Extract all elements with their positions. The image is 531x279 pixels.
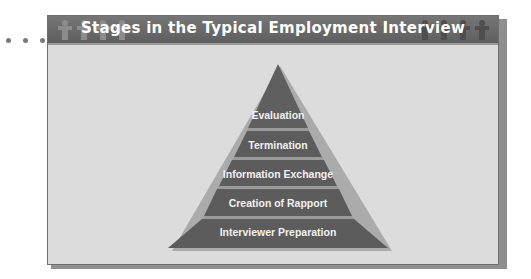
stage-label: Information Exchange xyxy=(223,168,333,180)
stage-label: Creation of Rapport xyxy=(229,197,328,209)
stage-label: Termination xyxy=(248,139,307,151)
stage-label: Interviewer Preparation xyxy=(220,226,337,238)
pyramid-diagram: Evaluation Termination Information Excha… xyxy=(0,0,531,279)
stage-label: Evaluation xyxy=(251,109,304,121)
